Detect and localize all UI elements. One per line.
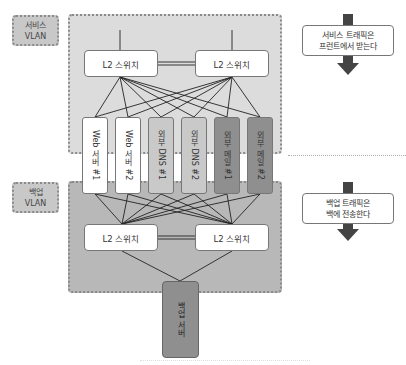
callout-line1: 서비스 트래픽은 — [303, 30, 393, 41]
callout-line1: 백업 트래픽은 — [303, 198, 393, 209]
server-label: Web 서버 #2 — [123, 130, 134, 180]
backup-l2-switch-left: L2 스위치 — [84, 224, 158, 251]
switch-label: L2 스위치 — [103, 58, 140, 70]
service-l2-switch-left: L2 스위치 — [84, 50, 158, 77]
service-l2-switch-right: L2 스위치 — [195, 50, 269, 77]
switch-label: L2 스위치 — [214, 232, 251, 244]
backup-server: 백업 서버 — [162, 281, 199, 358]
backup-server-label: 백업 서버 — [175, 302, 186, 337]
backup-arrow-down-icon — [337, 229, 359, 241]
service-traffic-callout: 서비스 트래픽은 프런트에서 받는다 — [302, 25, 394, 56]
server-label: 외부 DNS #1 — [156, 130, 167, 180]
external-mail-1: 외부 메일 #1 — [214, 117, 240, 194]
server-label: 외부 메일 #1 — [222, 131, 233, 180]
faint-caption-line — [140, 360, 310, 362]
service-arrow-down-icon — [337, 63, 359, 75]
server-label: Web 서버 #1 — [90, 130, 101, 180]
web-server-1: Web 서버 #1 — [82, 117, 108, 194]
switch-label: L2 스위치 — [103, 232, 140, 244]
callout-line2: 백에 전송한다 — [303, 209, 393, 220]
section-divider — [288, 155, 406, 156]
backup-l2-switch-right: L2 스위치 — [195, 224, 269, 251]
external-dns-1: 외부 DNS #1 — [148, 117, 174, 194]
external-mail-2: 외부 메일 #2 — [247, 117, 273, 194]
server-label: 외부 DNS #2 — [189, 130, 200, 180]
web-server-2: Web 서버 #2 — [115, 117, 141, 194]
external-dns-2: 외부 DNS #2 — [181, 117, 207, 194]
switch-label: L2 스위치 — [214, 58, 251, 70]
server-label: 외부 메일 #2 — [255, 131, 266, 180]
backup-traffic-callout: 백업 트래픽은 백에 전송한다 — [302, 193, 394, 224]
callout-line2: 프런트에서 받는다 — [303, 41, 393, 52]
